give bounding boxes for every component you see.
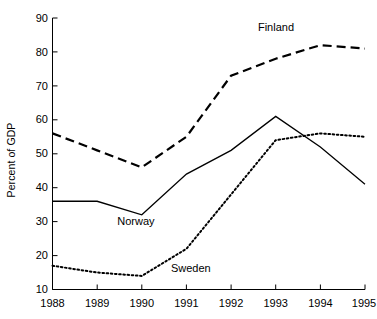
y-tick-marks xyxy=(53,18,58,290)
x-tick-marks xyxy=(53,285,366,290)
x-tick-label: 1994 xyxy=(308,298,332,309)
axis-lines xyxy=(53,18,366,290)
series-line-finland xyxy=(53,45,366,167)
x-tick-label: 1988 xyxy=(40,298,64,309)
x-tick-label: 1989 xyxy=(85,298,109,309)
series-line-norway xyxy=(53,116,366,214)
series-label-sweden: Sweden xyxy=(171,263,211,274)
x-tick-label: 1992 xyxy=(219,298,243,309)
x-tick-label: 1990 xyxy=(130,298,154,309)
chart-container: Percent of GDP 90 80 70 60 50 40 30 20 1… xyxy=(0,0,377,319)
x-tick-label: 1991 xyxy=(174,298,198,309)
series-line-sweden xyxy=(53,133,366,276)
series-label-norway: Norway xyxy=(117,216,154,227)
x-tick-label: 1993 xyxy=(263,298,287,309)
series-label-finland: Finland xyxy=(258,22,294,33)
x-axis-tick-labels: 1988 1989 1990 1991 1992 1993 1994 1995 xyxy=(0,293,377,319)
x-tick-label: 1995 xyxy=(352,298,376,309)
